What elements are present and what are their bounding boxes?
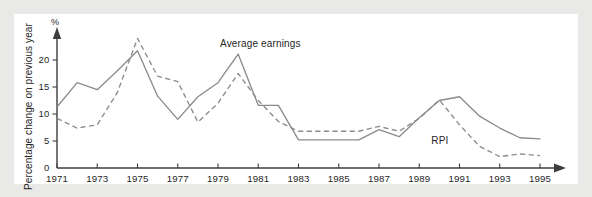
chart-figure: 05101520%1971197319751977197919811983198… — [0, 0, 592, 197]
x-tick-label: 1989 — [408, 173, 430, 184]
y-tick-label: 10 — [39, 108, 50, 119]
series-annotation-rpi: RPI — [431, 135, 448, 146]
y-tick-label: 0 — [44, 162, 49, 173]
x-tick-label: 1991 — [449, 173, 471, 184]
x-tick-label: 1981 — [247, 173, 269, 184]
x-tick-label: 1983 — [288, 173, 310, 184]
y-tick-label: 20 — [39, 54, 50, 65]
x-tick-label: 1973 — [86, 173, 108, 184]
y-axis-arrow — [53, 27, 61, 39]
y-tick-label: 15 — [39, 81, 50, 92]
x-tick-label: 1977 — [167, 173, 189, 184]
x-tick-label: 1995 — [529, 173, 551, 184]
x-tick-label: 1979 — [207, 173, 229, 184]
x-tick-label: 1987 — [368, 173, 390, 184]
series-annotation-average-earnings: Average earnings — [220, 38, 301, 49]
y-tick-label: 5 — [44, 135, 49, 146]
x-tick-label: 1985 — [328, 173, 350, 184]
x-tick-label: 1971 — [46, 173, 68, 184]
x-tick-label: 1975 — [127, 173, 149, 184]
y-axis-title: Percentage change on previous year — [23, 23, 34, 190]
line-chart: 05101520%1971197319751977197919811983198… — [0, 0, 592, 197]
x-tick-label: 1993 — [489, 173, 511, 184]
series-line-average-earnings — [57, 51, 540, 140]
y-axis-unit-label: % — [51, 17, 59, 27]
x-axis-arrow — [554, 164, 566, 173]
